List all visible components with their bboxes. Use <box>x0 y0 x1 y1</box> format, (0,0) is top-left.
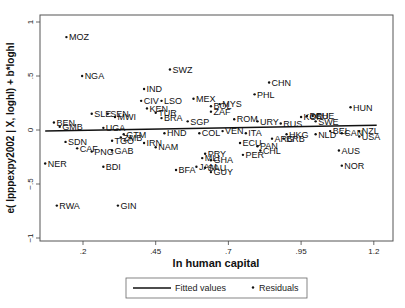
legend: Fitted values Residuals <box>126 278 307 298</box>
point-marker <box>358 135 360 137</box>
point-marker <box>155 146 157 148</box>
point-label: HUN <box>353 103 373 113</box>
point-marker <box>76 147 78 149</box>
point-label: MWI <box>117 112 136 122</box>
point-marker <box>210 110 212 112</box>
point-marker <box>221 130 223 132</box>
point-marker <box>160 117 162 119</box>
y-tick-label: −1 <box>26 233 35 243</box>
point-label: UGA <box>106 123 126 133</box>
point-marker <box>186 120 188 122</box>
point-marker <box>56 204 58 206</box>
x-tick-label: .45 <box>150 247 162 256</box>
point-marker <box>107 113 109 115</box>
point-label: CAN <box>344 128 363 138</box>
data-point: BFA <box>175 165 196 175</box>
data-point: CHN <box>268 78 291 88</box>
data-point: SWZ <box>169 65 193 75</box>
point-label: GIN <box>120 201 136 211</box>
data-point: BRB <box>282 134 304 144</box>
point-label: NAM <box>158 142 178 152</box>
data-point: MEX <box>192 94 215 104</box>
point-label: PHL <box>257 90 275 100</box>
point-marker <box>102 127 104 129</box>
point-marker <box>91 150 93 152</box>
point-marker <box>312 115 314 117</box>
point-marker <box>204 167 206 169</box>
point-marker <box>146 107 148 109</box>
x-axis-title: ln human capital <box>173 257 260 269</box>
data-point: UGA <box>102 123 125 133</box>
point-label: SWE <box>318 117 339 127</box>
data-point: PNG <box>91 147 114 157</box>
point-marker <box>169 68 171 70</box>
point-label: CHN <box>272 78 292 88</box>
x-tick-label: .7 <box>225 247 232 256</box>
data-point: ROM <box>233 114 258 124</box>
point-label: MOZ <box>69 32 89 42</box>
point-marker <box>358 130 360 132</box>
point-label: PER <box>245 150 264 160</box>
point-marker <box>314 120 316 122</box>
data-point: BDI <box>102 162 121 172</box>
data-point: MOZ <box>65 32 89 42</box>
data-point: HUN <box>349 103 372 113</box>
point-marker <box>349 106 351 108</box>
data-point: PHL <box>253 90 274 100</box>
point-marker <box>256 145 258 147</box>
point-marker <box>329 130 331 132</box>
data-point: SWE <box>314 117 338 127</box>
point-marker <box>239 142 241 144</box>
point-label: HND <box>167 128 187 138</box>
point-marker <box>102 166 104 168</box>
point-label: GMB <box>62 122 83 132</box>
point-marker <box>64 141 66 143</box>
point-marker <box>271 137 273 139</box>
data-point: HND <box>163 128 187 138</box>
point-marker <box>160 100 162 102</box>
point-label: ROM <box>237 114 258 124</box>
point-label: SWZ <box>172 65 192 75</box>
point-marker <box>280 122 282 124</box>
data-point: GAB <box>111 146 134 156</box>
legend-residuals-label: Residuals <box>259 283 299 293</box>
point-marker <box>341 132 343 134</box>
point-marker <box>111 140 113 142</box>
point-label: BFA <box>179 165 196 175</box>
data-point: MWI <box>114 112 136 122</box>
point-marker <box>341 164 343 166</box>
point-marker <box>253 93 255 95</box>
data-point: GIN <box>117 201 137 211</box>
point-marker <box>245 132 247 134</box>
point-label: ITA <box>248 128 261 138</box>
data-point: GMB <box>59 122 83 132</box>
data-point: SGP <box>186 117 209 127</box>
point-label: GAB <box>115 146 134 156</box>
point-marker <box>175 169 177 171</box>
data-point: AUS <box>338 146 360 156</box>
point-label: NGA <box>85 71 105 81</box>
point-label: GUY <box>213 167 233 177</box>
point-marker <box>268 81 270 83</box>
data-point: NAM <box>155 142 179 152</box>
data-point: GUY <box>210 167 233 177</box>
data-point: USA <box>358 132 380 142</box>
y-tick-label: .5 <box>26 72 35 79</box>
point-label: ECU <box>243 138 262 148</box>
data-point: IND <box>143 84 163 94</box>
point-marker <box>201 157 203 159</box>
x-tick-label: 1.2 <box>368 247 380 256</box>
point-label: RWA <box>59 201 80 211</box>
y-axis-title: e( lpppexpy2002 | X, loghl) + b*loghl <box>5 42 16 213</box>
y-tick-label: −.5 <box>26 178 35 190</box>
point-label: PNG <box>94 147 114 157</box>
point-marker <box>210 171 212 173</box>
point-label: SGP <box>190 117 209 127</box>
point-marker <box>306 115 308 117</box>
point-label: URY <box>260 117 279 127</box>
point-marker <box>53 121 55 123</box>
point-marker <box>81 75 83 77</box>
point-label: NER <box>48 159 68 169</box>
point-marker <box>65 36 67 38</box>
point-marker <box>91 113 93 115</box>
